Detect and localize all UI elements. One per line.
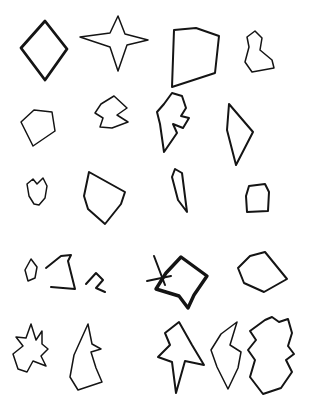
shape-drawing-surface	[0, 0, 309, 404]
shape-sheet-canvas	[0, 0, 309, 404]
page-background	[0, 0, 309, 404]
